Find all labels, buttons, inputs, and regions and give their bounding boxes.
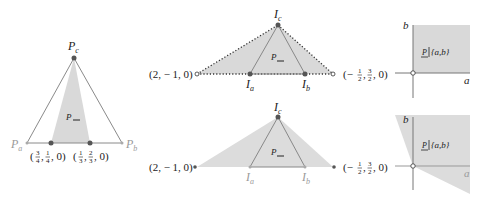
- svg-text:(: (: [73, 150, 77, 163]
- svg-text:P: P: [421, 141, 427, 150]
- region-p-restricted-label: P {a,b}: [421, 47, 450, 57]
- svg-text:1: 1: [358, 67, 362, 75]
- svg-text:{a,b}: {a,b}: [431, 140, 450, 150]
- svg-text:, 0): , 0): [373, 68, 388, 81]
- origin-point-label: (− 1 2 , 3 2 , 0): [343, 67, 388, 83]
- axis-b-label: b: [403, 19, 409, 31]
- ib-dot: [303, 72, 308, 77]
- svg-text:2: 2: [358, 75, 362, 83]
- origin-point: [411, 71, 415, 75]
- vertex-pa-label: Pa: [10, 137, 22, 153]
- left-point-label: (2, − 1, 0): [149, 68, 193, 81]
- left-point-dot: [193, 165, 197, 169]
- axis-a-label: a: [464, 74, 470, 86]
- region-shaded: [197, 25, 333, 74]
- panel-mid-top: (2, − 1, 0) Ic Ia Ib P: [149, 7, 335, 93]
- right-open-point: [331, 72, 335, 76]
- apex-ic-label: Ic: [273, 7, 282, 23]
- ia-label: Ia: [245, 170, 254, 186]
- svg-text:,: ,: [41, 150, 44, 162]
- svg-text:4: 4: [46, 157, 50, 165]
- ib-label: Ib: [301, 77, 310, 93]
- svg-text:3: 3: [89, 157, 93, 165]
- svg-text:4: 4: [36, 157, 40, 165]
- svg-text:,: ,: [84, 150, 87, 162]
- region-p-label: P: [65, 112, 72, 122]
- right-point-dot: [332, 165, 336, 169]
- ib-label: Ib: [301, 170, 310, 186]
- ib-dot: [304, 166, 307, 169]
- svg-text:, 0): , 0): [51, 150, 66, 163]
- origin-point-label: (− 1 2 , 3 2 , 0): [343, 160, 388, 176]
- vertex-pb-dot: [121, 142, 124, 145]
- svg-text:{a,b}: {a,b}: [431, 47, 450, 57]
- region-cone: [395, 115, 470, 194]
- region-p-label: P: [270, 147, 277, 157]
- point-3-4-dot: [49, 141, 54, 146]
- left-open-point: [195, 72, 199, 76]
- panel-left: Pc Pa Pb P ( 3 4 , 1 4 , 0) ( 1 3 , 2 3 …: [10, 39, 137, 165]
- svg-text:(: (: [30, 150, 34, 163]
- svg-text:2: 2: [89, 149, 93, 157]
- region-p-label: P: [270, 52, 277, 62]
- point-label-1-3-2-3: ( 1 3 , 2 3 , 0): [73, 149, 109, 165]
- svg-text:, 0): , 0): [373, 161, 388, 174]
- svg-text:2: 2: [368, 168, 372, 176]
- origin-point: [411, 164, 415, 168]
- axis-b-label: b: [403, 113, 409, 125]
- svg-text:2: 2: [358, 168, 362, 176]
- panel-right-bottom: b a P {a,b} (− 1 2 , 3 2 , 0): [343, 113, 470, 194]
- point-label-3-4-1-4: ( 3 4 , 1 4 , 0): [30, 149, 66, 165]
- svg-text:(−: (−: [343, 161, 353, 174]
- svg-text:1: 1: [358, 160, 362, 168]
- svg-text:(−: (−: [343, 68, 353, 81]
- svg-text:2: 2: [368, 75, 372, 83]
- region-p-minus: [51, 58, 90, 143]
- panel-mid-bottom: (2, − 1, 0) Ic Ia Ib P: [149, 100, 336, 186]
- ia-label: Ia: [245, 77, 254, 93]
- point-1-3-dot: [88, 141, 93, 146]
- svg-text:, 0): , 0): [94, 150, 109, 163]
- diagram-canvas: Pc Pa Pb P ( 3 4 , 1 4 , 0) ( 1 3 , 2 3 …: [0, 0, 484, 199]
- svg-text:3: 3: [368, 67, 372, 75]
- region-p-restricted-label: P {a,b}: [421, 140, 450, 150]
- svg-text:,: ,: [363, 68, 366, 80]
- vertex-pa-dot: [26, 142, 29, 145]
- ia-dot: [248, 72, 253, 77]
- vertex-pc-dot: [72, 56, 77, 61]
- panel-right-top: b a P {a,b} (− 1 2 , 3 2 , 0): [343, 19, 470, 98]
- apex-ic-dot: [276, 23, 281, 28]
- svg-text:3: 3: [79, 157, 83, 165]
- svg-text:P: P: [421, 48, 427, 57]
- svg-text:1: 1: [46, 149, 50, 157]
- apex-ic-label: Ic: [273, 100, 282, 116]
- left-point-label: (2, − 1, 0): [149, 161, 193, 174]
- svg-text:1: 1: [79, 149, 83, 157]
- vertex-pb-label: Pb: [125, 137, 137, 153]
- ia-dot: [249, 166, 252, 169]
- svg-text:3: 3: [368, 160, 372, 168]
- vertex-pc-label: Pc: [67, 39, 79, 55]
- svg-text:,: ,: [363, 161, 366, 173]
- svg-text:3: 3: [36, 149, 40, 157]
- region-shaded: [197, 117, 333, 167]
- axis-a-label: a: [464, 167, 470, 179]
